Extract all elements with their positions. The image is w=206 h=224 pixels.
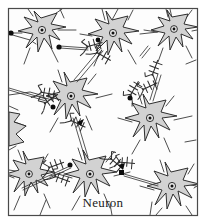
- nucleus-dot: [41, 29, 44, 32]
- nucleus-dot: [28, 173, 31, 176]
- terminal-bouton: [96, 38, 101, 43]
- terminal-bouton: [128, 96, 133, 101]
- nucleus-dot: [149, 117, 152, 120]
- nucleus-dot: [70, 95, 73, 98]
- terminal-bouton: [8, 30, 13, 35]
- nucleus-dot: [171, 185, 174, 188]
- terminal-bouton: [56, 44, 61, 49]
- neuron-diagram-svg: Neuron: [0, 0, 206, 224]
- neuron-figure: Neuron: [0, 0, 206, 224]
- figure-caption: Neuron: [83, 195, 124, 210]
- nucleus-dot: [173, 28, 176, 31]
- terminal-bouton: [68, 163, 73, 168]
- nucleus-dot: [89, 173, 92, 176]
- terminal-bouton: [119, 170, 124, 175]
- nucleus-dot: [112, 32, 115, 35]
- terminal-bouton: [51, 105, 56, 110]
